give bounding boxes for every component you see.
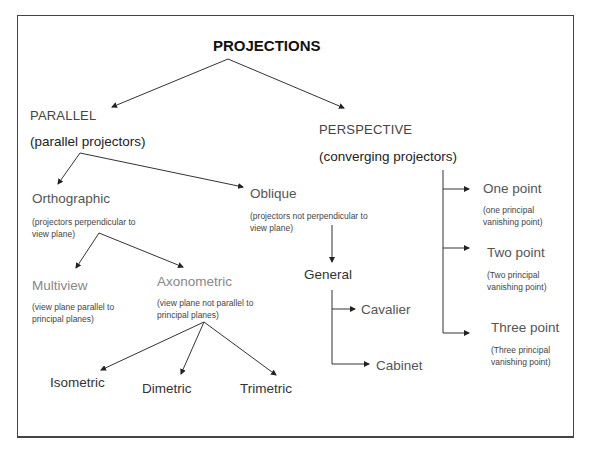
- node-axonometric: Axonometric: [157, 274, 232, 289]
- node-oblique-desc: (projectors not perpendicular to view pl…: [250, 210, 385, 234]
- node-two-point: Two point: [487, 245, 545, 260]
- node-cavalier: Cavalier: [361, 302, 411, 317]
- node-dimetric: Dimetric: [142, 381, 192, 396]
- node-three-point-desc: (Three principal vanishing point): [491, 344, 571, 368]
- title-projections: PROJECTIONS: [213, 37, 321, 54]
- node-oblique: Oblique: [250, 186, 297, 201]
- node-cabinet: Cabinet: [376, 358, 423, 373]
- node-parallel-desc: (parallel projectors): [30, 134, 146, 149]
- node-parallel: PARALLEL: [30, 108, 96, 123]
- node-one-point-desc: (one principal vanishing point): [483, 204, 563, 228]
- node-perspective: PERSPECTIVE: [319, 122, 412, 137]
- node-isometric: Isometric: [50, 375, 105, 390]
- node-orthographic: Orthographic: [32, 191, 110, 206]
- node-three-point: Three point: [491, 320, 559, 335]
- node-two-point-desc: (Two principal vanishing point): [487, 269, 567, 293]
- node-axonometric-desc: (view plane not parallel to principal pl…: [157, 297, 282, 321]
- node-orthographic-desc: (projectors perpendicular to view plane): [32, 216, 152, 240]
- node-one-point: One point: [483, 181, 542, 196]
- node-multiview-desc: (view plane parallel to principal planes…: [32, 301, 137, 325]
- node-multiview: Multiview: [32, 278, 88, 293]
- node-general: General: [304, 267, 352, 282]
- node-perspective-desc: (converging projectors): [319, 149, 457, 164]
- node-trimetric: Trimetric: [240, 381, 292, 396]
